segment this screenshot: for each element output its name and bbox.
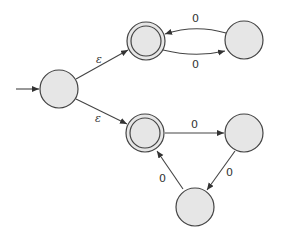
- state-q3-accepting: [126, 114, 164, 152]
- state-q2: [225, 21, 263, 59]
- nfa-diagram: ε ε 0 0 0 0 0: [0, 0, 281, 240]
- edge-q0-q1: [76, 50, 128, 79]
- edge-label-q5-q3: 0: [159, 172, 166, 185]
- state-q0: [40, 70, 78, 108]
- state-q1-accepting: [127, 22, 165, 60]
- state-q4: [225, 114, 263, 152]
- edge-label-q0-q3: ε: [95, 112, 101, 125]
- edge-label-q2-q1: 0: [192, 12, 199, 25]
- state-q5: [176, 188, 214, 226]
- edge-label-q1-q2: 0: [192, 58, 199, 71]
- edge-label-q0-q1: ε: [96, 53, 102, 66]
- edge-q2-q1: [165, 29, 226, 34]
- edge-q0-q3: [76, 99, 127, 124]
- edge-label-q4-q5: 0: [226, 166, 233, 179]
- edge-q1-q2: [163, 50, 225, 54]
- edge-label-q3-q4: 0: [191, 118, 198, 131]
